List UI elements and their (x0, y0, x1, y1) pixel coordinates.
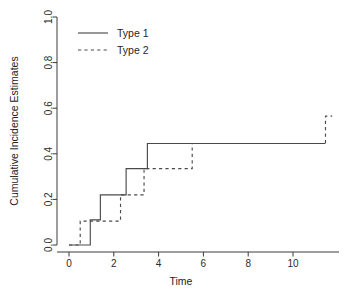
series-line-1 (69, 144, 325, 245)
x-tick-label: 10 (287, 258, 299, 269)
y-axis-title: Cumulative Incidence Estimates (8, 56, 20, 205)
x-axis: 0246810 (57, 252, 339, 269)
chart-container: 0.00.20.40.60.81.0 0246810 Type 1Type 2 … (0, 0, 355, 296)
x-tick-label: 0 (66, 258, 72, 269)
y-tick-label: 0.2 (43, 192, 54, 206)
y-tick-label: 1.0 (43, 10, 54, 24)
y-tick-label: 0.8 (43, 55, 54, 69)
x-tick-label: 2 (111, 258, 117, 269)
series-layer (69, 116, 332, 245)
legend: Type 1Type 2 (78, 27, 149, 56)
y-tick-label: 0.6 (43, 101, 54, 115)
x-axis-title: Time (170, 275, 193, 287)
y-tick-label: 0.0 (43, 238, 54, 252)
legend-label-1: Type 1 (117, 27, 149, 39)
series-line-2 (69, 116, 332, 245)
cumulative-incidence-plot: 0.00.20.40.60.81.0 0246810 Type 1Type 2 … (0, 0, 355, 296)
x-tick-label: 4 (156, 258, 162, 269)
y-axis: 0.00.20.40.60.81.0 (43, 10, 57, 252)
y-tick-label: 0.4 (43, 146, 54, 160)
legend-label-2: Type 2 (117, 44, 149, 56)
x-tick-label: 8 (245, 258, 251, 269)
x-tick-label: 6 (201, 258, 207, 269)
